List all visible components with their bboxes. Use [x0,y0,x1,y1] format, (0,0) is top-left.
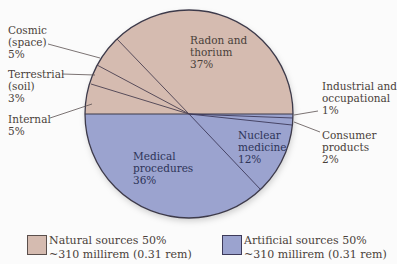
leader-line [48,44,100,58]
label-internal: Internal 5% [8,113,51,137]
legend-swatch-artificial [222,235,242,255]
leader-line [294,122,320,132]
leader-line [294,111,318,115]
label-medical: Medical procedures 36% [133,150,193,186]
label-nuclear: Nuclear medicine 12% [238,129,286,165]
legend-artificial: Artificial sources 50% ~310 millirem (0.… [244,234,387,262]
natural-half [85,10,293,114]
label-terrestrial: Terrestrial (soil) 3% [8,68,64,104]
label-cosmic: Cosmic (space) 5% [8,24,47,60]
legend-swatch-natural [27,235,47,255]
label-industrial: Industrial and occupational 1% [322,80,397,116]
label-consumer: Consumer products 2% [322,129,376,165]
leader-line [62,74,95,75]
legend-natural: Natural sources 50% ~310 millirem (0.31 … [49,234,192,262]
label-radon: Radon and thorium 37% [190,34,247,70]
